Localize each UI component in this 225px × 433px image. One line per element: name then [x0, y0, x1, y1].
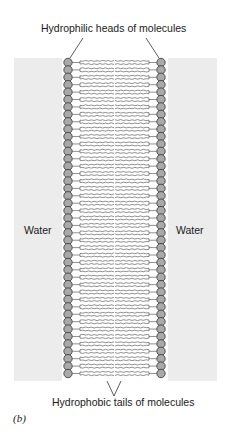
- figure-label: (b): [13, 412, 26, 424]
- lipid-bilayer-diagram: [0, 0, 225, 433]
- bottom-label: Hydrophobic tails of molecules: [52, 396, 194, 408]
- hydrophilic-head-right: [157, 369, 165, 377]
- hydrophilic-head-left: [64, 369, 72, 377]
- left-water-label: Water: [24, 224, 52, 236]
- right-water-label: Water: [176, 224, 204, 236]
